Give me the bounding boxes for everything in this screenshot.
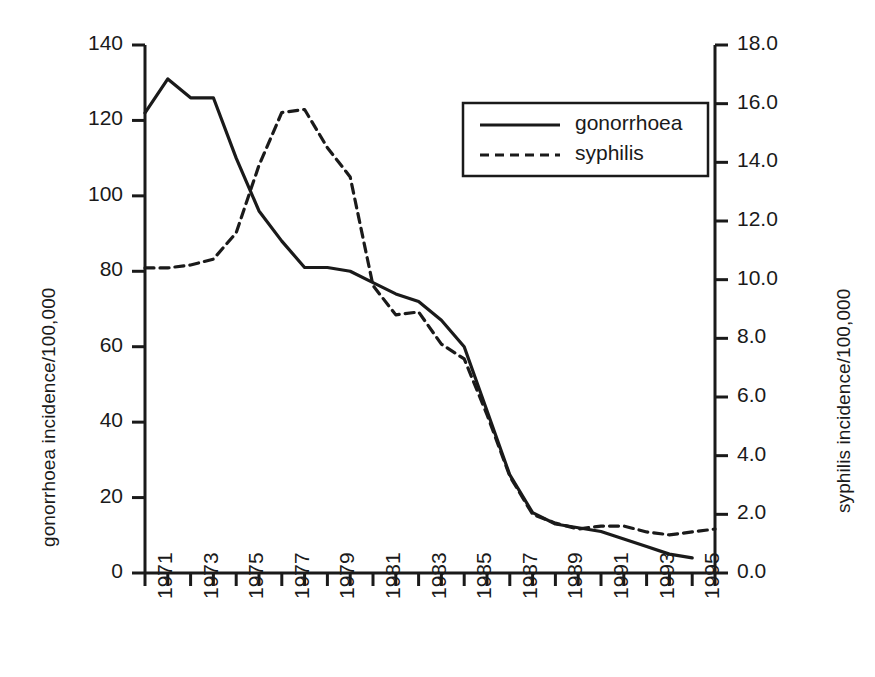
chart-figure: gonorrhoea incidence/100,000 syphilis in… bbox=[0, 0, 875, 677]
x-axis-tick-1977: 1977 bbox=[290, 552, 314, 599]
y-axis-right-tick-4: 8.0 bbox=[737, 324, 766, 348]
y-axis-right-tick-9: 18.0 bbox=[737, 31, 778, 55]
legend-label-gonorrhoea: gonorrhoea bbox=[575, 111, 682, 135]
x-axis-tick-1993: 1993 bbox=[655, 552, 679, 599]
x-axis-tick-1985: 1985 bbox=[472, 552, 496, 599]
y-axis-right-tick-7: 14.0 bbox=[737, 148, 778, 172]
y-axis-right-tick-3: 6.0 bbox=[737, 383, 766, 407]
x-axis-tick-1971: 1971 bbox=[153, 552, 177, 599]
y-axis-left-tick-1: 20 bbox=[53, 484, 123, 508]
x-axis-tick-1995: 1995 bbox=[700, 552, 724, 599]
y-axis-left-tick-6: 120 bbox=[53, 106, 123, 130]
y-axis-left-tick-4: 80 bbox=[53, 257, 123, 281]
y-axis-right-tick-8: 16.0 bbox=[737, 90, 778, 114]
x-axis-tick-1981: 1981 bbox=[381, 552, 405, 599]
x-axis-tick-1983: 1983 bbox=[427, 552, 451, 599]
x-axis-tick-1991: 1991 bbox=[609, 552, 633, 599]
x-axis-tick-1979: 1979 bbox=[335, 552, 359, 599]
x-axis-tick-1989: 1989 bbox=[563, 552, 587, 599]
y-axis-right-tick-2: 4.0 bbox=[737, 442, 766, 466]
x-axis-tick-1973: 1973 bbox=[199, 552, 223, 599]
y-axis-right-title: syphilis incidence/100,000 bbox=[833, 289, 855, 513]
y-axis-right-tick-1: 2.0 bbox=[737, 500, 766, 524]
legend-label-syphilis: syphilis bbox=[575, 141, 644, 165]
y-axis-left-tick-2: 40 bbox=[53, 408, 123, 432]
y-axis-right-tick-6: 12.0 bbox=[737, 207, 778, 231]
x-axis-tick-1987: 1987 bbox=[518, 552, 542, 599]
y-axis-left-tick-0: 0 bbox=[53, 559, 123, 583]
y-axis-left-tick-5: 100 bbox=[53, 182, 123, 206]
x-axis-tick-1975: 1975 bbox=[244, 552, 268, 599]
y-axis-right-tick-5: 10.0 bbox=[737, 266, 778, 290]
y-axis-left-tick-3: 60 bbox=[53, 333, 123, 357]
y-axis-left-tick-7: 140 bbox=[53, 31, 123, 55]
y-axis-right-tick-0: 0.0 bbox=[737, 559, 766, 583]
